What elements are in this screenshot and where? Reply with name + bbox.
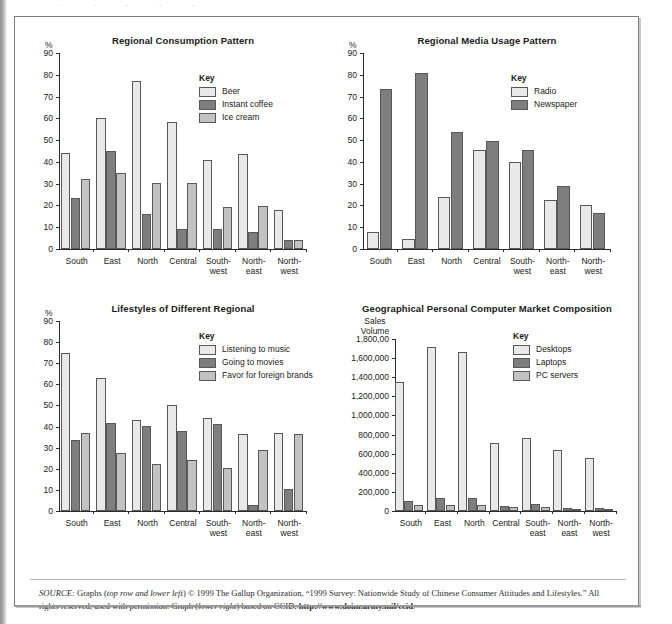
bar	[71, 198, 81, 249]
x-group-tick	[539, 249, 540, 252]
bar	[203, 160, 213, 249]
bar	[402, 239, 415, 249]
y-tick-label: 80	[33, 337, 53, 347]
plot-area: 0200,000400,000600,000800,0001,000,0001,…	[395, 339, 617, 511]
x-group-tick	[503, 249, 504, 252]
chart-legend: KeyBeerInstant coffeeIce cream	[199, 73, 273, 125]
y-tick-label: 70	[337, 92, 357, 102]
chart-legend: KeyRadioNewspaper	[511, 73, 577, 112]
legend-label: Radio	[534, 86, 556, 96]
legend-item[interactable]: Instant coffee	[199, 99, 273, 110]
legend-label: Desktops	[536, 344, 571, 354]
bar	[213, 424, 223, 511]
y-tick-label: 10	[33, 485, 53, 495]
bar	[177, 431, 187, 511]
source-note: SOURCE: Graphs (top row and lower left) …	[39, 587, 619, 612]
bar	[522, 438, 531, 511]
bar	[223, 468, 233, 511]
legend-item[interactable]: Listening to music	[199, 344, 313, 355]
legend-item[interactable]: Radio	[511, 86, 577, 97]
y-tick	[56, 342, 59, 343]
source-label: SOURCE:	[39, 588, 75, 598]
bar	[213, 229, 223, 249]
bar	[142, 426, 152, 511]
legend-swatch-icon	[199, 371, 216, 381]
scan-top-text-artifact: . . , . .	[60, 0, 620, 6]
page-bottom-rule	[14, 605, 641, 607]
x-group-tick	[520, 511, 521, 514]
bar	[187, 460, 197, 511]
bar	[96, 378, 106, 511]
y-tick-label: 60	[33, 379, 53, 389]
legend-item[interactable]: Newspaper	[511, 99, 577, 110]
legend-item[interactable]: PC servers	[513, 370, 578, 381]
y-tick-label: 200,000	[337, 487, 389, 497]
y-tick	[56, 490, 59, 491]
legend-item[interactable]: Laptops	[513, 357, 578, 368]
bar	[427, 347, 436, 511]
legend-item[interactable]: Going to movies	[199, 357, 313, 368]
bar	[593, 213, 606, 249]
bar	[248, 232, 258, 249]
legend-item[interactable]: Ice cream	[199, 112, 273, 123]
y-tick-label: 1,600,000	[337, 353, 389, 363]
y-tick	[360, 249, 363, 250]
legend-swatch-icon	[199, 113, 216, 123]
chart-panel-regional-consumption-pattern: Regional Consumption Pattern%01020304050…	[21, 25, 333, 293]
bar	[152, 464, 162, 512]
legend-swatch-icon	[511, 100, 528, 110]
chart-title: Regional Media Usage Pattern	[363, 35, 611, 46]
bar	[395, 382, 404, 511]
y-tick-label: 10	[337, 222, 357, 232]
y-tick	[360, 205, 363, 206]
y-tick-label: 0	[337, 506, 389, 516]
legend-item[interactable]: Desktops	[513, 344, 578, 355]
scan-binding-edge	[0, 0, 7, 624]
x-axis-label-line: west	[268, 529, 311, 539]
bar	[81, 433, 91, 511]
bar	[96, 118, 106, 249]
bar	[106, 151, 116, 249]
x-group-tick	[616, 511, 617, 514]
legend-swatch-icon	[199, 87, 216, 97]
legend-label: Going to movies	[222, 357, 283, 367]
chart-panel-regional-media-usage-pattern: Regional Media Usage Pattern%01020304050…	[335, 25, 635, 293]
bar	[258, 206, 268, 249]
bar	[557, 186, 570, 249]
bar	[544, 200, 557, 249]
x-axis-label-north-west: North-west	[268, 257, 311, 276]
x-group-tick	[199, 249, 200, 252]
legend-label: Listening to music	[222, 344, 290, 354]
x-group-tick	[584, 511, 585, 514]
bar	[294, 240, 304, 249]
x-group-tick	[164, 511, 165, 514]
bar	[61, 153, 71, 249]
legend-label: Favor for foreign brands	[222, 370, 313, 380]
y-axis-line	[59, 53, 60, 250]
legend-item[interactable]: Beer	[199, 86, 273, 97]
legend-label: Ice cream	[222, 112, 259, 122]
bar	[167, 405, 177, 511]
y-axis-line	[59, 321, 60, 512]
bar	[284, 489, 294, 511]
y-tick	[56, 118, 59, 119]
bar	[116, 173, 126, 249]
x-group-tick	[93, 249, 94, 252]
bar	[553, 450, 562, 511]
y-tick-label: 70	[33, 92, 53, 102]
bar	[61, 353, 71, 511]
legend-item[interactable]: Favor for foreign brands	[199, 370, 313, 381]
source-em1: top row and lower left	[107, 588, 183, 598]
y-tick	[56, 469, 59, 470]
y-tick-label: 10	[33, 222, 53, 232]
bar	[274, 433, 284, 511]
y-tick	[56, 227, 59, 228]
y-tick-label: 20	[33, 200, 53, 210]
legend-label: Beer	[222, 86, 240, 96]
chart-panel-lifestyles-of-different-regional: Lifestyles of Different Regional%0102030…	[21, 295, 333, 553]
y-tick	[56, 162, 59, 163]
y-tick	[56, 363, 59, 364]
y-tick-label: 60	[33, 113, 53, 123]
legend-label: PC servers	[536, 370, 578, 380]
x-group-tick	[199, 511, 200, 514]
